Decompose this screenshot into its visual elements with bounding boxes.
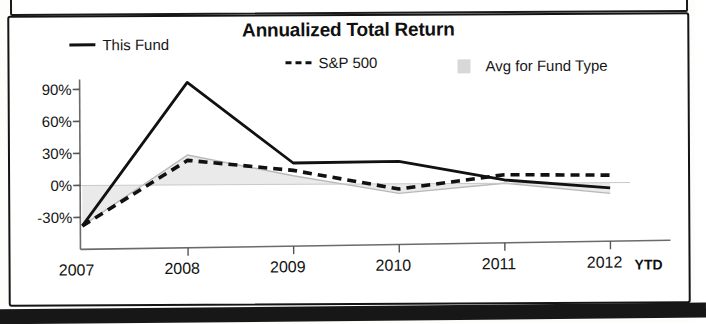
x-axis-tick-label: 2012 <box>587 253 623 271</box>
y-axis-tick-label: -30% <box>10 209 72 226</box>
x-axis-tick-label: 2008 <box>164 260 200 278</box>
x-axis-tick-label: 2011 <box>482 255 517 273</box>
y-axis-tick-label: 0% <box>10 177 72 194</box>
ytd-note-label: YTD <box>635 256 663 272</box>
x-axis-tick-label: 2010 <box>376 256 412 274</box>
y-axis-tick-label: 30% <box>10 145 72 162</box>
x-axis-tick-label: 2009 <box>270 258 306 276</box>
y-axis-tick-label: 90% <box>10 81 72 98</box>
y-axis-tick-label: 60% <box>10 113 72 130</box>
x-axis-tick-label: 2007 <box>59 261 95 279</box>
chart-panel: Annualized Total Return This Fund S&P 50… <box>7 12 691 307</box>
